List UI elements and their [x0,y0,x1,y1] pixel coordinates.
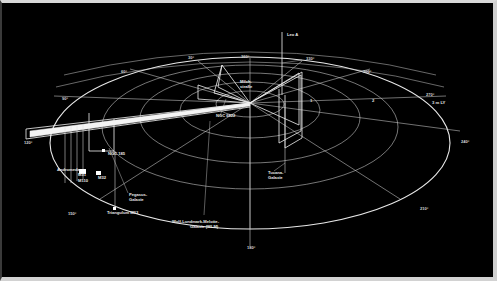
label-milky-way-line2: straße [240,84,253,89]
spoke-90 [54,96,250,103]
azimuth-label-300: 300° [363,69,372,74]
label-andromeda-line2: M31 [78,172,87,177]
label-andromeda-line1: Andromeda [57,167,80,172]
azimuth-label-270: 270° [426,92,435,97]
azimuth-label-60: 60° [121,69,127,74]
azimuth-label-150: 150° [68,211,77,216]
object-triangulum-m33 [113,151,116,210]
tucana-fin [250,72,302,148]
azimuth-label-330: 330° [306,56,315,61]
label-ngc6822: NGC 6822 [216,113,236,118]
azimuth-label-180: 180° [247,245,256,250]
label-ngc185: NGC 185 [108,151,126,156]
label-m110: M110 [78,178,89,183]
label-leo-a: Leo A [287,32,298,37]
azimuth-label-360: 360° [241,54,250,59]
label-m32: M32 [98,175,107,180]
spoke-210 [250,103,400,199]
label-wlm-line2: Galaxie (WLM) [190,224,219,229]
azimuth-label-240: 240° [461,139,470,144]
leo-a-leader [282,60,302,63]
andromeda-wedge-fill [30,103,250,137]
ngc185-box [89,113,114,151]
label-tucana-line2: Galaxie [268,175,283,180]
label-triangulum-m33: Triangulum M33 [107,210,139,215]
label-pegasus-line2: Galaxie [129,197,144,202]
diagram-frame: .gl{fill:none;stroke:#d6d6d6;stroke-widt… [0,0,497,281]
azimuth-label-90: 90° [62,96,68,101]
object-wlm [204,121,210,215]
radius-tick-3: 3 m LY [432,100,446,105]
azimuth-label-120: 120° [24,140,33,145]
diagram-svg: .gl{fill:none;stroke:#d6d6d6;stroke-widt… [2,3,497,281]
azimuth-label-30: 30° [188,55,194,60]
wlm-leader [204,121,210,215]
azimuth-label-210: 210° [420,206,429,211]
marker-ngc185 [102,149,105,152]
screenshot-page: .gl{fill:none;stroke:#d6d6d6;stroke-widt… [0,0,497,281]
local-group-diagram: .gl{fill:none;stroke:#d6d6d6;stroke-widt… [2,3,497,281]
